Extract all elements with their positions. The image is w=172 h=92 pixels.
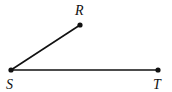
label-r: R — [74, 3, 84, 18]
label-t: T — [153, 77, 162, 92]
point-s — [8, 67, 13, 72]
point-r — [77, 22, 82, 27]
segment-sr — [11, 25, 80, 70]
angle-diagram: R S T — [0, 0, 172, 92]
label-s: S — [6, 77, 13, 92]
point-t — [155, 67, 160, 72]
